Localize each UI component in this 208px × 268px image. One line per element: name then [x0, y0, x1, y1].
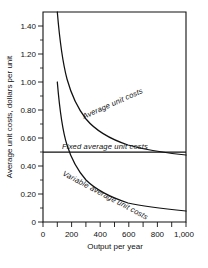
y-axis-ticks [38, 26, 43, 222]
y-axis-labels: 1.40 1.20 1.00 0.80 0.60 0.40 0.20 0 [20, 22, 36, 227]
variable-average-unit-costs-label: Variable average unit costs [61, 169, 149, 222]
x-axis-ticks [43, 222, 186, 227]
y-axis-title: Average unit costs, dollars per unit [5, 55, 14, 178]
y-tick-label-080: 0.80 [20, 106, 36, 115]
x-tick-label-400: 400 [94, 230, 108, 239]
x-axis-title: Output per year [87, 242, 143, 251]
average-unit-costs-curve [57, 12, 186, 155]
y-tick-label-020: 0.20 [20, 190, 36, 199]
y-tick-label-000: 0 [32, 218, 37, 227]
y-tick-label-100: 1.00 [20, 78, 36, 87]
cost-curves-figure: 1.40 1.20 1.00 0.80 0.60 0.40 0.20 0 0 [0, 0, 208, 268]
chart-canvas: 1.40 1.20 1.00 0.80 0.60 0.40 0.20 0 0 [0, 0, 208, 268]
x-tick-label-800: 800 [151, 230, 165, 239]
x-tick-label-1000: 1,000 [174, 230, 195, 239]
fixed-average-unit-costs-label: Fixed average unit costs [62, 142, 148, 151]
average-unit-costs-label: Average unit costs [80, 86, 144, 121]
y-tick-label-120: 1.20 [20, 50, 36, 59]
y-tick-label-040: 0.40 [20, 162, 36, 171]
plot-frame [43, 12, 186, 222]
data-curves [43, 12, 186, 211]
y-tick-label-060: 0.60 [20, 134, 36, 143]
y-tick-label-140: 1.40 [20, 22, 36, 31]
x-tick-label-200: 200 [65, 230, 79, 239]
x-axis-labels: 0 200 400 600 800 1,000 [41, 230, 195, 239]
curve-annotations: Average unit costs Fixed average unit co… [61, 86, 149, 221]
x-tick-label-600: 600 [122, 230, 136, 239]
x-tick-label-0: 0 [41, 230, 46, 239]
